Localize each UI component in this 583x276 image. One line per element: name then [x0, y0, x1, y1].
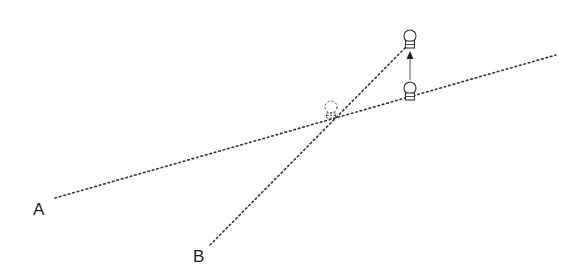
arrow-up-icon [407, 51, 414, 80]
line-b [210, 48, 405, 245]
line-a [55, 55, 556, 198]
label-b: B [193, 247, 204, 266]
label-a: A [33, 200, 45, 219]
bulb-bottom-icon [404, 82, 416, 100]
diagram-canvas: A B [0, 0, 583, 276]
bulb-ghost-icon [325, 101, 337, 118]
bulb-top-icon [404, 30, 416, 48]
